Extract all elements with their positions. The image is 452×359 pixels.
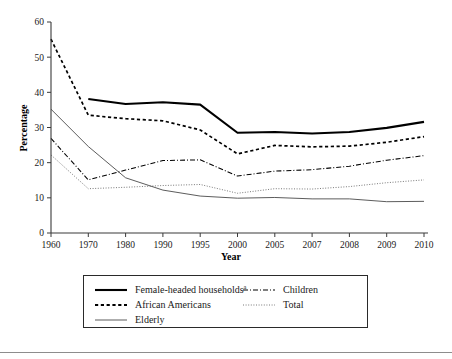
legend-swatch-dash-dot-icon: [242, 285, 276, 295]
series-line-african-americans: [51, 39, 424, 154]
legend-item-children[interactable]: Children: [242, 282, 379, 297]
y-tick-label: 50: [35, 53, 45, 63]
footer-rule: [0, 352, 452, 353]
x-tick-label: 1980: [116, 240, 135, 250]
y-tick-label: 0: [39, 228, 44, 238]
x-tick-label: 2009: [377, 240, 396, 250]
legend-label: Elderly: [135, 314, 164, 325]
y-tick-label: 30: [35, 123, 45, 133]
x-axis-title: Year: [221, 251, 242, 262]
legend-label: Children: [283, 284, 318, 295]
x-tick-label: 2010: [415, 240, 434, 250]
figure-container: 0102030405060196019701980199019952000200…: [0, 0, 452, 359]
legend-item-african-americans[interactable]: African Americans: [94, 297, 242, 312]
tick-label-group: 0102030405060196019701980199019952000200…: [35, 17, 434, 250]
legend-swatch-dotted-icon: [242, 300, 276, 310]
y-tick-label: 40: [35, 88, 45, 98]
x-tick-label: 1970: [79, 240, 98, 250]
legend-swatch-solid-thin-icon: [94, 315, 128, 325]
x-tick-label: 1960: [42, 240, 61, 250]
y-axis-title: Percentage: [18, 104, 29, 152]
legend-grid: Female-headed householdsaChildrenAfrican…: [84, 276, 367, 327]
legend-swatch-dashed-icon: [94, 300, 128, 310]
x-tick-label: 2007: [303, 240, 322, 250]
legend-swatch-solid-thick-icon: [94, 285, 128, 295]
series-line-female-headed-households: [88, 99, 424, 133]
legend-item-total[interactable]: Total: [242, 297, 379, 312]
legend-label: Female-headed householdsa: [135, 283, 246, 295]
legend-label: Total: [283, 299, 303, 310]
y-tick-label: 60: [35, 17, 45, 27]
series-group: [51, 39, 424, 201]
legend-label: African Americans: [135, 299, 211, 310]
y-tick-label: 10: [35, 193, 45, 203]
x-tick-label: 1995: [191, 240, 210, 250]
series-line-elderly: [51, 109, 424, 201]
x-tick-label: 1990: [153, 240, 172, 250]
legend-item-elderly[interactable]: Elderly: [94, 312, 242, 327]
x-tick-label: 2005: [265, 240, 284, 250]
x-tick-label: 2000: [228, 240, 247, 250]
x-tick-label: 2008: [340, 240, 359, 250]
chart-legend: Female-headed householdsaChildrenAfrican…: [83, 275, 368, 328]
series-line-total: [51, 155, 424, 193]
legend-item-female-headed-households[interactable]: Female-headed householdsa: [94, 282, 242, 297]
y-tick-label: 20: [35, 158, 45, 168]
